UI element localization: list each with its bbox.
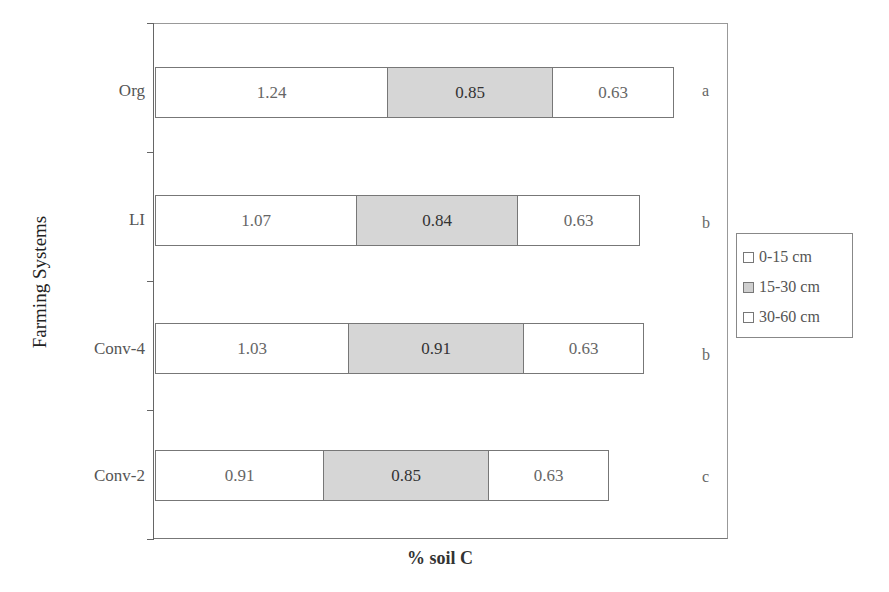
segment-0-15: 1.07 bbox=[155, 195, 357, 246]
segment-0-15: 1.24 bbox=[155, 67, 388, 118]
significance-letter: c bbox=[702, 468, 709, 486]
legend-swatch-icon bbox=[743, 312, 754, 323]
segment-30-60: 0.63 bbox=[518, 195, 640, 246]
bar-org: 1.24 0.85 0.63 bbox=[155, 67, 674, 118]
category-label-li: LI bbox=[129, 210, 145, 230]
legend: 0-15 cm 15-30 cm 30-60 cm bbox=[736, 233, 853, 338]
segment-30-60: 0.63 bbox=[524, 323, 644, 374]
segment-30-60: 0.63 bbox=[553, 67, 674, 118]
significance-letter: a bbox=[702, 82, 709, 100]
segment-30-60: 0.63 bbox=[489, 450, 609, 501]
y-tick bbox=[147, 152, 153, 153]
significance-letter: b bbox=[702, 346, 710, 364]
legend-label: 30-60 cm bbox=[759, 308, 820, 326]
y-axis-line bbox=[153, 23, 154, 540]
category-label-org: Org bbox=[119, 81, 145, 101]
legend-item-15-30: 15-30 cm bbox=[743, 272, 852, 302]
bar-conv-2: 0.91 0.85 0.63 bbox=[155, 450, 609, 501]
category-label-conv-2: Conv-2 bbox=[94, 466, 145, 486]
segment-15-30: 0.85 bbox=[324, 450, 489, 501]
y-tick bbox=[147, 23, 153, 24]
legend-label: 0-15 cm bbox=[759, 248, 812, 266]
x-axis-title: % soil C bbox=[407, 548, 473, 569]
legend-item-0-15: 0-15 cm bbox=[743, 242, 852, 272]
y-tick bbox=[147, 281, 153, 282]
significance-letter: b bbox=[702, 214, 710, 232]
legend-swatch-icon bbox=[743, 282, 754, 293]
legend-item-30-60: 30-60 cm bbox=[743, 302, 852, 332]
y-tick bbox=[147, 410, 153, 411]
bar-li: 1.07 0.84 0.63 bbox=[155, 195, 640, 246]
y-axis-title: Farming Systems bbox=[29, 216, 51, 348]
legend-swatch-icon bbox=[743, 252, 754, 263]
segment-15-30: 0.91 bbox=[349, 323, 524, 374]
segment-15-30: 0.85 bbox=[388, 67, 553, 118]
category-label-conv-4: Conv-4 bbox=[94, 339, 145, 359]
bar-conv-4: 1.03 0.91 0.63 bbox=[155, 323, 644, 374]
segment-0-15: 0.91 bbox=[155, 450, 324, 501]
segment-15-30: 0.84 bbox=[357, 195, 518, 246]
y-tick bbox=[147, 539, 153, 540]
segment-0-15: 1.03 bbox=[155, 323, 349, 374]
legend-label: 15-30 cm bbox=[759, 278, 820, 296]
